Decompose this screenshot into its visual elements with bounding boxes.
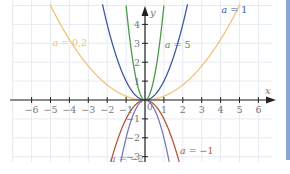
x-tick-label: −5 [43,104,57,115]
series-label: a = 1 [222,4,248,15]
x-axis-label: x [265,85,271,96]
y-axis-arrow-icon [142,6,149,16]
series-labels: a = 0,2a = 1a = 5a = −1a = −2 [52,4,247,163]
series-label: a = −1 [180,145,214,156]
x-tick-label: 3 [199,104,205,115]
origin-label: 0 [147,102,153,112]
y-axis-label: y [149,7,156,18]
y-tick-label: 1 [134,76,140,87]
series-label: a = −2 [110,153,144,164]
x-tick-label: −3 [81,104,95,115]
x-tick-label: 6 [255,104,261,115]
parabola-chart: x y 0 −6−5−4−3−2−1123456−3−2−11234 a = 0… [0,0,290,174]
axes: x y 0 [10,6,276,162]
x-tick-label: 5 [236,104,242,115]
x-tick-label: 4 [218,104,224,115]
series-label: a = 0,2 [52,37,87,48]
y-tick-label: 2 [134,57,140,68]
y-tick-label: 4 [134,19,140,30]
side-bar [286,0,290,160]
y-tick-label: 3 [134,38,140,49]
y-tick-label: −1 [126,113,140,124]
series-label: a = 5 [165,39,191,50]
x-tick-label: 2 [180,104,186,115]
y-tick-label: −2 [126,132,140,143]
x-tick-label: −6 [25,104,39,115]
x-tick-label: −4 [62,104,76,115]
x-tick-label: 1 [161,104,167,115]
x-tick-label: −2 [100,104,114,115]
x-axis-arrow-icon [266,97,276,104]
